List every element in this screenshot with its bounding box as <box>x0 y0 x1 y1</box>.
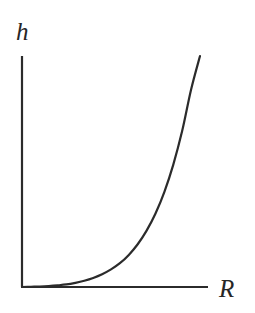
data-curve-h-of-R <box>22 56 200 287</box>
x-axis-label: R <box>219 276 234 301</box>
plot-area <box>0 0 255 313</box>
figure-canvas: h R <box>0 0 255 313</box>
y-axis-label: h <box>16 19 29 44</box>
axis-group <box>21 56 208 287</box>
